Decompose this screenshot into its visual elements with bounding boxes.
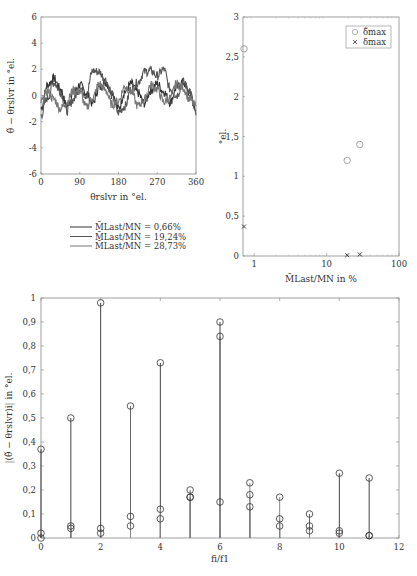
y-tick-label: 0,3 — [22, 461, 36, 471]
stem-marker — [68, 415, 75, 422]
harmonic-spectrum-stem-plot: 02468101200,10,20,30,40,50,60,70,80,91fi… — [4, 293, 404, 564]
x-tick-label: 0 — [38, 177, 43, 187]
y-axis-label: |(θ̃ − θrslvr)i| in °el. — [4, 372, 15, 463]
stem-marker — [97, 530, 104, 537]
y-tick-label: 6 — [32, 12, 37, 22]
legend-entry: δ̃max — [363, 27, 386, 37]
y-tick-label: 0,8 — [22, 341, 36, 351]
x-tick-label: 4 — [158, 542, 163, 552]
x-tick-label: 8 — [277, 542, 282, 552]
series-legend: M̄Last/MN = 0,66%M̄Last/MN = 19,24%M̄Las… — [70, 221, 186, 251]
stem-marker — [127, 513, 134, 520]
stem-marker — [187, 494, 194, 501]
y-tick-label: 0,6 — [22, 389, 36, 399]
y-tick-label: 0,9 — [22, 317, 36, 327]
stem-marker — [336, 470, 343, 477]
y-tick-label: 2 — [32, 64, 37, 74]
angle-error-plot: 090180270360-6-4-20246θrslvr in °el.θ̃ −… — [6, 12, 204, 202]
y-tick-label: 2 — [234, 92, 239, 102]
stem-marker — [247, 504, 254, 511]
scatter-legend: δ̃maxδmax — [346, 26, 391, 48]
y-tick-label: -6 — [29, 169, 37, 179]
figure-canvas: 090180270360-6-4-20246θrslvr in °el.θ̃ −… — [0, 0, 417, 576]
stem-marker — [366, 475, 373, 482]
max-error-scatter-plot: 11010000,511,522,53δ̃maxδmaxM̄Last/MN in… — [218, 12, 407, 284]
stem-marker — [97, 300, 104, 307]
y-tick-label: 0,1 — [22, 509, 36, 519]
stem-marker — [276, 494, 283, 501]
series-line — [41, 66, 196, 117]
x-tick-label: 10 — [334, 542, 345, 552]
stem-marker — [157, 360, 164, 367]
x-tick-label: 10 — [321, 259, 332, 269]
y-tick-label: 0,7 — [22, 365, 36, 375]
stem-marker — [336, 528, 343, 535]
y-tick-label: -2 — [29, 117, 37, 127]
x-axis-label: M̄Last/MN in % — [285, 273, 357, 284]
stem-marker — [217, 333, 224, 340]
y-tick-label: 0,5 — [22, 413, 36, 423]
y-tick-label: 3 — [234, 12, 239, 22]
y-tick-label: 1 — [234, 171, 239, 181]
stem-marker — [38, 535, 45, 542]
stem-marker — [276, 516, 283, 523]
x-tick-label: 90 — [74, 177, 85, 187]
y-tick-label: 0 — [234, 251, 239, 261]
x-tick-label: 270 — [149, 177, 165, 187]
stem-marker — [247, 492, 254, 499]
stem-marker — [306, 511, 313, 518]
y-tick-label: 4 — [32, 38, 37, 48]
y-tick-label: 0,4 — [22, 437, 36, 447]
stem-marker — [187, 487, 194, 494]
stem-marker — [366, 532, 373, 539]
x-tick-label: 2 — [98, 542, 103, 552]
stem-marker — [217, 319, 224, 326]
y-axis-label: °el. — [218, 129, 228, 145]
x-tick-label: 0 — [38, 542, 43, 552]
legend-entry: δmax — [363, 37, 386, 47]
stem-marker — [38, 446, 45, 453]
y-tick-label: 0,5 — [225, 211, 239, 221]
circle-marker — [357, 141, 363, 147]
y-axis-label: θ̃ − θrslvr in °el. — [6, 58, 16, 133]
x-tick-label: 180 — [110, 177, 126, 187]
x-tick-label: 12 — [394, 542, 405, 552]
y-tick-label: -4 — [29, 143, 37, 153]
stem-marker — [127, 403, 134, 410]
legend-entry: M̄Last/MN = 28,73% — [95, 240, 186, 251]
x-axis-label: fi/f1 — [211, 554, 229, 564]
legend-entry: M̄Last/MN = 0,66% — [95, 221, 181, 232]
y-tick-label: 0,2 — [22, 485, 36, 495]
y-tick-label: 2,5 — [225, 52, 239, 62]
legend-entry: M̄Last/MN = 19,24% — [95, 231, 186, 242]
circle-marker — [241, 46, 247, 52]
y-tick-label: 0 — [31, 533, 36, 543]
stem-marker — [276, 523, 283, 530]
stem-marker — [306, 528, 313, 535]
x-tick-label: 100 — [391, 259, 407, 269]
x-tick-label: 360 — [188, 177, 204, 187]
plot-frame — [41, 17, 196, 174]
stem-marker — [157, 506, 164, 513]
stem-marker — [247, 480, 254, 487]
stem-marker — [127, 523, 134, 530]
plot-frame — [243, 17, 399, 256]
circle-marker — [344, 157, 350, 163]
x-tick-label: 6 — [217, 542, 222, 552]
y-tick-label: 1 — [31, 293, 36, 303]
x-axis-label: θrslvr in °el. — [90, 192, 147, 202]
x-tick-label: 1 — [252, 259, 257, 269]
stem-marker — [217, 499, 224, 506]
y-tick-label: 0 — [32, 91, 37, 101]
stem-marker — [157, 516, 164, 523]
stem-marker — [68, 523, 75, 530]
